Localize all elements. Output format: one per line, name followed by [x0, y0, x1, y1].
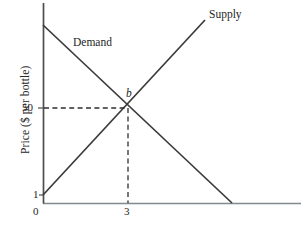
x-tick-label-3: 3	[124, 206, 130, 217]
y-tick-label-1: 1	[33, 189, 39, 200]
demand-curve	[43, 25, 232, 203]
chart-canvas	[0, 0, 308, 229]
supply-demand-figure: Price ($ per bottle) 50 1 0 3 Demand Sup…	[0, 0, 308, 229]
y-tick-label-50: 50	[22, 102, 33, 113]
origin-label: 0	[33, 206, 39, 217]
demand-curve-label: Demand	[73, 37, 112, 49]
equilibrium-point-label: b	[126, 88, 132, 100]
supply-curve-label: Supply	[209, 9, 242, 21]
